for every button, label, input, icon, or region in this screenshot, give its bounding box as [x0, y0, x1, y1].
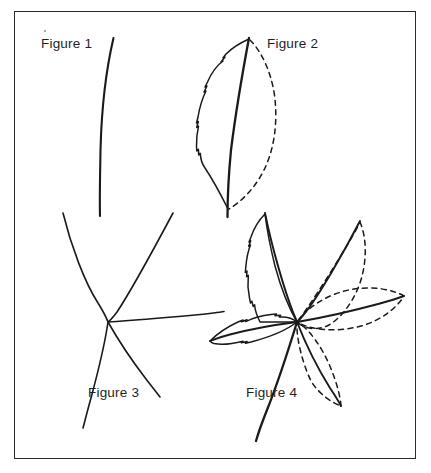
figure-plate: Figure 1 Figure 2 Figure 3 Figure 4	[0, 0, 431, 473]
figure-4-label: Figure 4	[246, 385, 297, 400]
figure-3-label: Figure 3	[88, 385, 139, 400]
figure-2-label: Figure 2	[267, 36, 318, 51]
scan-speck	[44, 30, 46, 32]
figure-1-label: Figure 1	[41, 36, 92, 51]
plate-border	[14, 11, 416, 459]
